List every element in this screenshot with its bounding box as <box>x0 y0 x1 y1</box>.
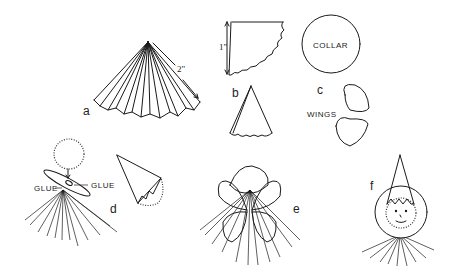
panel-label-a: a <box>83 104 90 118</box>
head-top <box>230 166 268 193</box>
glue-label-left: GLUE <box>34 184 58 193</box>
wing-upper-right <box>252 181 281 210</box>
panel-label-d: d <box>110 202 117 216</box>
panel-label-f: f <box>370 179 374 193</box>
glue-label-right: GLUE <box>91 181 115 190</box>
wing-bottom <box>336 118 368 146</box>
panel-d-assembly: GLUE GLUE d <box>25 139 163 246</box>
panel-e-wings-on-fan: e <box>200 166 300 265</box>
wing-top <box>344 84 369 111</box>
collar-label: COLLAR <box>313 41 348 50</box>
panel-label-b: b <box>232 86 239 100</box>
dimension-2in: 2" <box>177 64 186 74</box>
dimension-1in: 1" <box>219 42 228 52</box>
wing-lower-left <box>223 212 247 242</box>
eye-right <box>405 210 407 212</box>
panel-f-finished: f <box>362 155 434 266</box>
wing-lower-right <box>252 212 276 242</box>
head-ball <box>54 139 84 169</box>
panel-label-e: e <box>293 202 300 216</box>
panel-b-pattern: 1" b <box>219 22 284 137</box>
collar-ring <box>375 186 427 238</box>
panel-label-c: c <box>317 83 323 97</box>
craft-diagram: 2" a 1" b COLLAR c WINGS GLUE GLUE <box>0 0 459 280</box>
eye-left <box>395 210 397 212</box>
hat-cone-with-pompom <box>117 155 161 203</box>
panel-a-fan: 2" a <box>83 42 200 118</box>
panel-c-collar-wings: COLLAR c WINGS <box>302 15 369 146</box>
wings-label: WINGS <box>307 110 337 119</box>
